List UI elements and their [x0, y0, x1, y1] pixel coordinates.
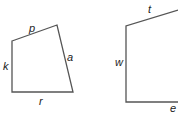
label-r: r	[39, 95, 44, 107]
label-k: k	[3, 60, 9, 72]
label-w: w	[115, 56, 124, 68]
open-shape	[126, 10, 178, 102]
label-a: a	[67, 51, 73, 63]
diagram-canvas: p k a r t w e	[0, 0, 178, 114]
label-p: p	[28, 22, 35, 34]
label-t: t	[148, 3, 152, 15]
quadrilateral-figure: p k a r	[3, 22, 73, 107]
open-figure: t w e	[115, 3, 178, 114]
label-e: e	[170, 102, 176, 114]
quadrilateral-shape	[12, 25, 73, 92]
